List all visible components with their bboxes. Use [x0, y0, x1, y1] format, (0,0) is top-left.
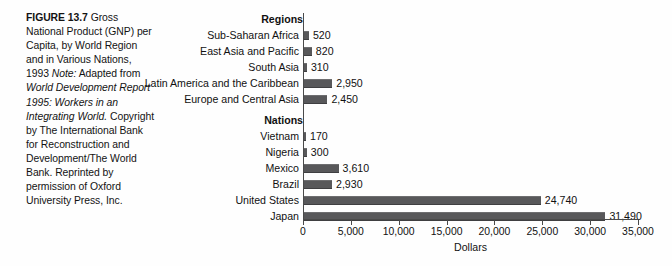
bar	[304, 164, 339, 173]
axis-tick	[447, 220, 448, 225]
bar-row: East Asia and Pacific820	[140, 45, 664, 58]
bar-value-label: 2,930	[336, 178, 363, 191]
bar	[304, 31, 309, 40]
axis-tick	[542, 220, 543, 225]
axis-tick-label: 30,000	[574, 226, 606, 238]
bar-category-label: Latin America and the Caribbean	[140, 77, 299, 90]
bar-value-label: 170	[310, 130, 328, 143]
bar-category-label: Mexico	[140, 162, 299, 175]
bar	[304, 196, 541, 205]
axis-tick-label: 10,000	[383, 226, 415, 238]
group-header-nations: Nations	[140, 114, 303, 127]
axis-tick-label: 25,000	[526, 226, 558, 238]
x-axis-title: Dollars	[303, 241, 638, 253]
bar-category-label: East Asia and Pacific	[140, 45, 299, 58]
bar-value-label: 2,950	[336, 77, 363, 90]
axis-tick-label: 15,000	[431, 226, 463, 238]
bar-row: Mexico3,610	[140, 162, 664, 175]
bar-chart: RegionsSub-Saharan Africa520East Asia an…	[140, 6, 664, 256]
bar-row: Nigeria300	[140, 146, 664, 159]
value-axis-line	[303, 13, 304, 220]
bar	[304, 79, 332, 88]
bar-category-label: United States	[140, 194, 299, 207]
note-label: Note:	[52, 68, 77, 79]
bar-value-label: 310	[311, 61, 329, 74]
bar-row: Sub-Saharan Africa520	[140, 29, 664, 42]
bar-category-label: Sub-Saharan Africa	[140, 29, 299, 42]
bar-row: United States24,740	[140, 194, 664, 207]
bar-row: Latin America and the Caribbean2,950	[140, 77, 664, 90]
bar-value-label: 31,490	[609, 210, 641, 223]
bar-value-label: 2,450	[331, 93, 358, 106]
note-rest: Copyright by The International Bank for …	[26, 111, 154, 207]
bar	[304, 63, 307, 72]
bar-row: Japan31,490	[140, 210, 664, 223]
axis-tick-label: 20,000	[479, 226, 511, 238]
bar-row: Europe and Central Asia2,450	[140, 93, 664, 106]
bar-value-label: 300	[311, 146, 329, 159]
bar	[304, 132, 306, 141]
axis-tick	[494, 220, 495, 225]
bar	[304, 180, 332, 189]
axis-tick	[351, 220, 352, 225]
bar-value-label: 820	[316, 45, 334, 58]
bar-row: Vietnam170	[140, 130, 664, 143]
bar-value-label: 520	[313, 29, 331, 42]
bar	[304, 47, 312, 56]
bar-value-label: 24,740	[545, 194, 577, 207]
axis-tick	[399, 220, 400, 225]
bar-row: South Asia310	[140, 61, 664, 74]
group-header-regions: Regions	[140, 13, 303, 26]
bar	[304, 148, 307, 157]
bar-category-label: Vietnam	[140, 130, 299, 143]
figure-caption: FIGURE 13.7 Gross National Product (GNP)…	[26, 11, 154, 208]
axis-tick-label: 35,000	[622, 226, 654, 238]
axis-tick	[303, 220, 304, 225]
category-axis-line	[303, 219, 638, 220]
bar-category-label: Japan	[140, 210, 299, 223]
axis-tick	[638, 220, 639, 225]
figure-label: FIGURE 13.7	[26, 12, 88, 23]
bar-category-label: South Asia	[140, 61, 299, 74]
bar-row: Brazil2,930	[140, 178, 664, 191]
bar-category-label: Nigeria	[140, 146, 299, 159]
axis-tick-label: 0	[300, 226, 306, 238]
bar-value-label: 3,610	[343, 162, 370, 175]
axis-tick-label: 5,000	[338, 226, 364, 238]
bar	[304, 95, 327, 104]
figure-container: FIGURE 13.7 Gross National Product (GNP)…	[0, 0, 672, 266]
bar-category-label: Brazil	[140, 178, 299, 191]
bar-category-label: Europe and Central Asia	[140, 93, 299, 106]
axis-tick	[590, 220, 591, 225]
note-lead: Adapted from	[79, 68, 141, 79]
